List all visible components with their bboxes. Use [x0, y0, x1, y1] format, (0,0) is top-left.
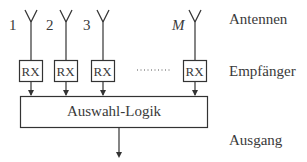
selection-logic-label: Auswahl-Logik	[20, 104, 208, 119]
receiver-label: RX	[19, 65, 42, 78]
antenna-number-3: 3	[83, 18, 91, 33]
antenna-icon	[25, 10, 37, 60]
receiver-label: RX	[54, 65, 77, 78]
antenna-number-m: M	[172, 18, 185, 33]
antenna-icon	[189, 10, 201, 60]
receiver-label: RX	[91, 65, 114, 78]
receiver-label: RX	[183, 65, 206, 78]
output-label: Ausgang	[229, 133, 282, 148]
arrowheads	[28, 90, 198, 158]
antenna-number-2: 2	[46, 18, 54, 33]
antennas-row-label: Antennen	[229, 12, 287, 27]
antenna-number-1: 1	[9, 18, 17, 33]
antenna-icon	[60, 10, 72, 60]
antenna-icon	[97, 10, 109, 60]
receivers-row-label: Empfänger	[229, 64, 296, 79]
